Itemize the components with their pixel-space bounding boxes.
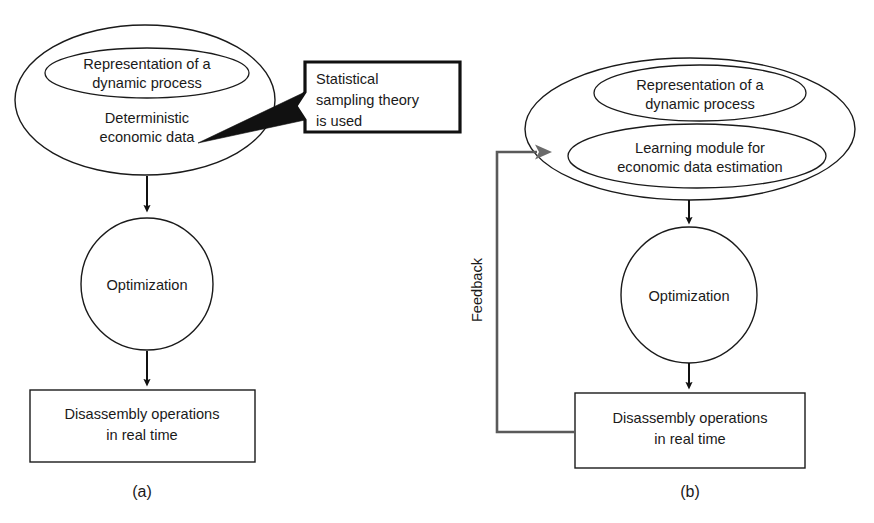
- disassembly-box-a-label-line1: Disassembly operations: [65, 406, 220, 422]
- caption-a: (a): [132, 483, 152, 500]
- panel-a: Representation of a dynamic process Dete…: [15, 25, 460, 500]
- outer-ellipse-a-label-line2: economic data: [100, 129, 196, 145]
- inner-ellipse-b-representation-label-line1: Representation of a: [636, 77, 764, 93]
- inner-ellipse-b-representation-label-line2: dynamic process: [645, 96, 755, 112]
- disassembly-box-b-label-line2: in real time: [654, 431, 725, 447]
- inner-ellipse-b-learning-module-label-line1: Learning module for: [635, 140, 765, 156]
- inner-ellipse-b-learning-module-label-line2: economic data estimation: [617, 159, 782, 175]
- optimization-circle-a-label: Optimization: [106, 277, 187, 293]
- caption-b: (b): [680, 483, 700, 500]
- callout-a-label-line1: Statistical: [316, 71, 378, 87]
- inner-ellipse-a-label-line1: Representation of a: [83, 56, 211, 72]
- diagram-canvas: Representation of a dynamic process Dete…: [0, 0, 874, 523]
- disassembly-box-b-label-line1: Disassembly operations: [613, 410, 768, 426]
- feedback-path-b: [497, 152, 575, 432]
- optimization-circle-b-label: Optimization: [648, 288, 729, 304]
- disassembly-box-a-label-line2: in real time: [106, 427, 177, 443]
- inner-ellipse-a-label-line2: dynamic process: [92, 75, 202, 91]
- panel-b: Representation of a dynamic process Lear…: [469, 58, 855, 500]
- callout-a-label-line3: is used: [316, 113, 362, 129]
- callout-a-label-line2: sampling theory: [316, 92, 420, 108]
- disassembly-box-a: [30, 390, 255, 462]
- outer-ellipse-a-label-line1: Deterministic: [105, 110, 189, 126]
- figure-root: Representation of a dynamic process Dete…: [0, 0, 874, 523]
- feedback-label-b: Feedback: [469, 257, 485, 322]
